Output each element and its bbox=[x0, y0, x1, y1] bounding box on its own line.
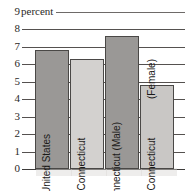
bar-label-connecticut-female-paren: (Female) bbox=[146, 59, 157, 99]
gridline-9 bbox=[52, 12, 185, 13]
y-tick-1: 1 bbox=[0, 146, 20, 157]
y-tick-5: 5 bbox=[0, 76, 20, 87]
bar-connecticut-male[interactable]: Connecticut (Male) bbox=[105, 36, 139, 169]
y-tick-7: 7 bbox=[0, 41, 20, 52]
gridline-8 bbox=[22, 29, 185, 30]
y-tick-6: 6 bbox=[0, 58, 20, 69]
axis-unit-label: percent bbox=[21, 6, 56, 17]
bar-label-connecticut-male: Connecticut (Male) bbox=[111, 122, 122, 191]
y-tick-9: 9 bbox=[0, 6, 20, 17]
y-tick-4: 4 bbox=[0, 93, 20, 104]
bar-chart: United States Connecticut Connecticut (M… bbox=[0, 0, 193, 191]
y-tick-0: 0 bbox=[0, 163, 20, 174]
bar-united-states[interactable]: United States bbox=[35, 50, 69, 169]
bar-label-connecticut-female: Connecticut bbox=[146, 138, 157, 191]
bar-connecticut[interactable]: Connecticut bbox=[70, 59, 104, 169]
y-tick-8: 8 bbox=[0, 23, 20, 34]
plot-area: United States Connecticut Connecticut (M… bbox=[22, 0, 193, 191]
gridline-7 bbox=[22, 47, 185, 48]
y-tick-3: 3 bbox=[0, 111, 20, 122]
y-tick-2: 2 bbox=[0, 128, 20, 139]
bar-label-connecticut: Connecticut bbox=[76, 138, 87, 191]
bar-label-united-states: United States bbox=[41, 134, 52, 191]
